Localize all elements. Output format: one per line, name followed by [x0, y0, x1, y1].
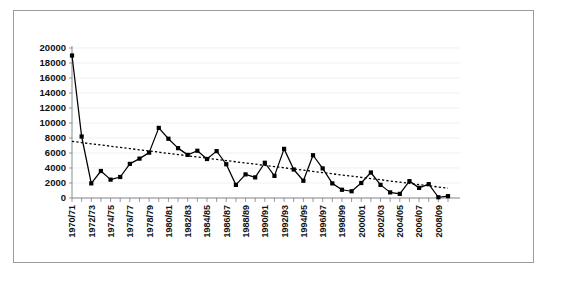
- x-axis-tick-label: 1988/89: [241, 205, 251, 238]
- data-point-marker: [224, 162, 228, 166]
- x-axis-tick-label: 1998/99: [337, 205, 347, 238]
- data-point-marker: [147, 151, 151, 155]
- data-point-marker: [398, 192, 402, 196]
- data-point-marker: [176, 146, 180, 150]
- x-axis-tick-label: 2002/03: [376, 205, 386, 238]
- data-point-marker: [89, 181, 93, 185]
- x-axis-tick-label: 1996/97: [318, 205, 328, 238]
- data-point-marker: [407, 179, 411, 183]
- data-point-marker: [417, 186, 421, 190]
- data-point-marker: [340, 188, 344, 192]
- y-axis-tick-label: 20000: [40, 42, 66, 53]
- x-axis-tick-label: 1980/81: [164, 205, 174, 238]
- chart-ytick-labels: 0200040006000800010000120001400016000180…: [40, 42, 72, 203]
- data-point-marker: [253, 175, 257, 179]
- x-axis-tick-label: 2004/05: [395, 205, 405, 238]
- data-point-marker: [186, 153, 190, 157]
- data-point-marker: [234, 183, 238, 187]
- y-axis-tick-label: 8000: [45, 132, 66, 143]
- data-point-marker: [157, 126, 161, 130]
- x-axis-tick-label: 1986/87: [222, 205, 232, 238]
- x-axis-tick-label: 1990/91: [260, 205, 270, 238]
- data-point-marker: [118, 175, 122, 179]
- data-point-marker: [427, 182, 431, 186]
- y-axis-tick-label: 16000: [40, 72, 66, 83]
- data-point-marker: [243, 172, 247, 176]
- data-point-marker: [80, 134, 84, 138]
- data-point-marker: [330, 181, 334, 185]
- data-point-marker: [359, 181, 363, 185]
- data-point-marker: [321, 166, 325, 170]
- data-point-marker: [108, 178, 112, 182]
- chart-page: 0200040006000800010000120001400016000180…: [0, 0, 569, 286]
- chart-xtick-labels: 1970/711972/731974/751976/771978/791980/…: [67, 205, 443, 238]
- x-axis-tick-label: 1992/93: [280, 205, 290, 238]
- chart-gridlines: [72, 48, 460, 198]
- data-point-marker: [436, 195, 440, 199]
- data-point-marker: [446, 194, 450, 198]
- x-axis-tick-label: 1972/73: [87, 205, 97, 238]
- data-series-line: [72, 56, 448, 198]
- data-point-marker: [99, 169, 103, 173]
- x-axis-tick-label: 1970/71: [67, 205, 77, 238]
- x-axis-tick-label: 1976/77: [125, 205, 135, 238]
- y-axis-tick-label: 14000: [40, 87, 66, 98]
- data-point-marker: [137, 157, 141, 161]
- data-point-marker: [263, 161, 267, 165]
- data-point-marker: [128, 162, 132, 166]
- y-axis-tick-label: 0: [61, 192, 66, 203]
- data-point-marker: [282, 147, 286, 151]
- y-axis-tick-label: 2000: [45, 177, 66, 188]
- data-point-marker: [272, 174, 276, 178]
- y-axis-tick-label: 6000: [45, 147, 66, 158]
- data-point-marker: [195, 149, 199, 153]
- data-point-marker: [388, 190, 392, 194]
- data-point-marker: [70, 53, 74, 57]
- y-axis-tick-label: 18000: [40, 57, 66, 68]
- y-axis-tick-label: 4000: [45, 162, 66, 173]
- data-point-marker: [215, 149, 219, 153]
- x-axis-tick-label: 1978/79: [145, 205, 155, 238]
- chart-xticks: [72, 198, 448, 202]
- line-chart: 0200040006000800010000120001400016000180…: [0, 0, 569, 286]
- data-point-marker: [369, 170, 373, 174]
- chart-series-group: [72, 56, 448, 198]
- x-axis-tick-label: 1984/85: [202, 205, 212, 238]
- y-axis-tick-label: 12000: [40, 102, 66, 113]
- x-axis-tick-label: 1974/75: [106, 205, 116, 238]
- x-axis-tick-label: 1982/83: [183, 205, 193, 238]
- x-axis-tick-label: 2006/07: [414, 205, 424, 238]
- chart-markers-group: [70, 53, 450, 199]
- data-point-marker: [378, 183, 382, 187]
- data-point-marker: [292, 167, 296, 171]
- data-point-marker: [205, 157, 209, 161]
- data-point-marker: [301, 179, 305, 183]
- x-axis-tick-label: 2000/01: [357, 205, 367, 238]
- x-axis-tick-label: 2008/09: [434, 205, 444, 238]
- y-axis-tick-label: 10000: [40, 117, 66, 128]
- data-point-marker: [166, 137, 170, 141]
- data-point-marker: [349, 189, 353, 193]
- chart-axes: [72, 46, 460, 198]
- data-point-marker: [311, 153, 315, 157]
- x-axis-tick-label: 1994/95: [299, 205, 309, 238]
